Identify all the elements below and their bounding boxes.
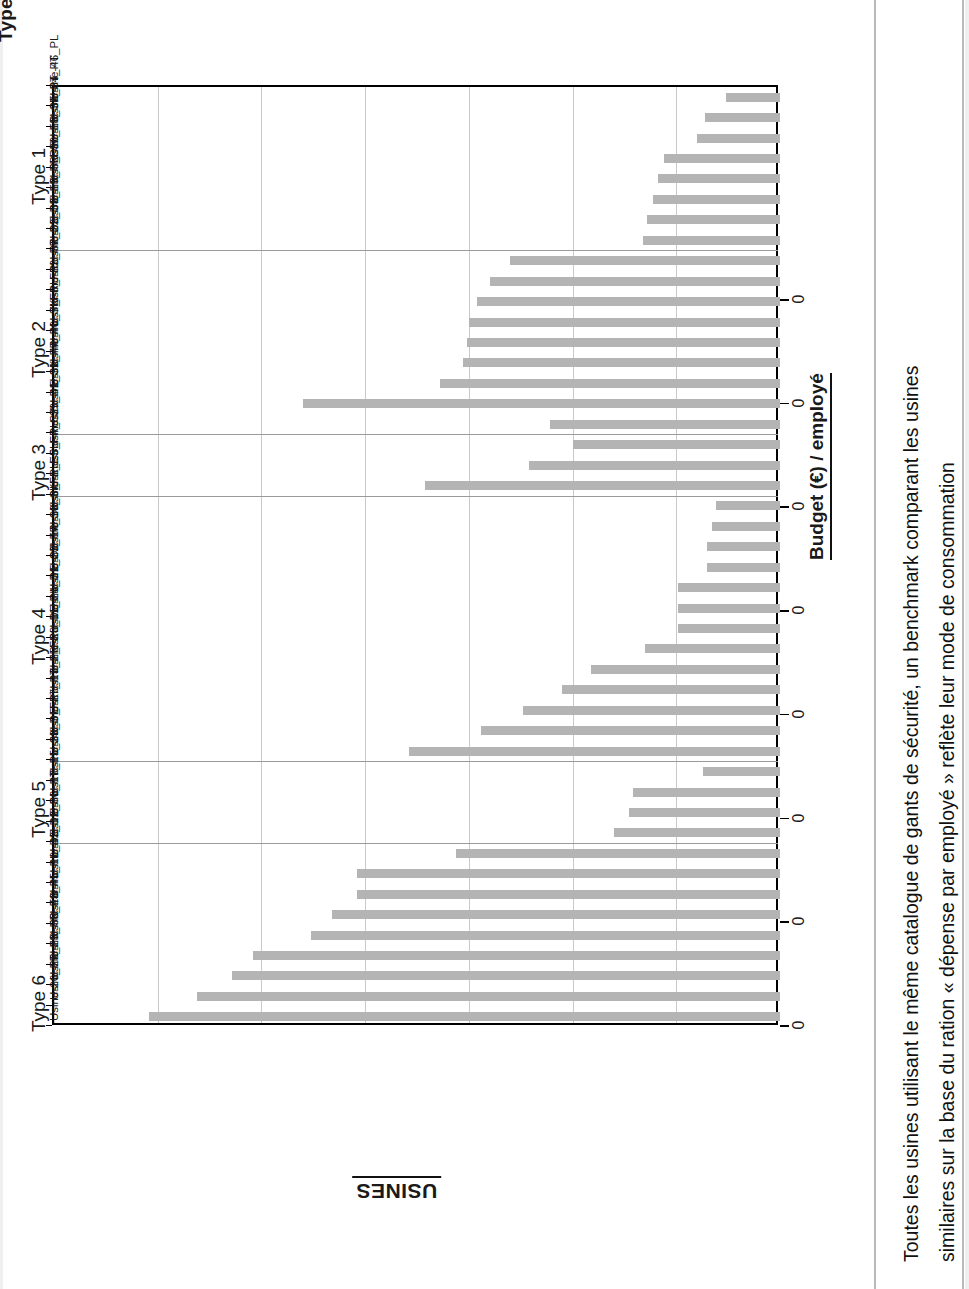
gridline (573, 87, 574, 1023)
bar (678, 624, 780, 633)
bar (425, 481, 780, 490)
caption-line-1: Toutes les usines utilisant le même cata… (893, 52, 929, 1262)
bar (149, 1012, 780, 1021)
group-separator (54, 761, 778, 762)
plot-area (52, 85, 778, 1025)
bar (463, 358, 780, 367)
value-tick (780, 506, 789, 508)
bar (357, 890, 780, 899)
bar (697, 134, 780, 143)
bar (311, 931, 780, 940)
bar-chart: Types d'usine Usine-46_PLUsine-34_PTUsin… (0, 0, 875, 1289)
value-tick (780, 403, 789, 405)
value-tick-label: 0 (790, 286, 808, 312)
bar (481, 726, 780, 735)
bar (716, 501, 780, 510)
bar (591, 665, 780, 674)
page-edge-right (965, 0, 969, 1289)
bar (469, 318, 780, 327)
gridline (261, 87, 262, 1023)
value-tick-label: 0 (790, 805, 808, 831)
bar (562, 685, 780, 694)
value-tick (780, 921, 789, 923)
category-tick-labels: Usine-46_PLUsine-34_PTUsine-35_PTUsine-1… (0, 85, 52, 1025)
bar (197, 992, 780, 1001)
value-tick (780, 610, 789, 612)
bar (573, 440, 780, 449)
value-tick-label: 0 (790, 908, 808, 934)
bar (303, 399, 780, 408)
group-axis-title: Types d'usine (0, 0, 25, 42)
bar (232, 971, 780, 980)
bar (510, 256, 780, 265)
bar (253, 951, 780, 960)
bar (712, 522, 780, 531)
value-tick-label: 0 (790, 597, 808, 623)
bar (678, 604, 780, 613)
bar (645, 644, 780, 653)
bar (707, 563, 780, 572)
bar (456, 849, 780, 858)
bar (332, 910, 780, 919)
bar (705, 113, 780, 122)
bar (647, 215, 780, 224)
value-axis-title: Budget (€) / employé (806, 373, 832, 560)
bar (477, 297, 780, 306)
bar (409, 747, 780, 756)
bar (664, 154, 780, 163)
group-separator (54, 250, 778, 251)
group-separator (54, 496, 778, 497)
bar (643, 236, 780, 245)
figure-caption: Toutes les usines utilisant le même cata… (893, 52, 965, 1262)
group-separator (54, 843, 778, 844)
value-tick (780, 818, 789, 820)
bar (703, 767, 780, 776)
gridline (676, 87, 677, 1023)
group-label-type-2: Type 2 (28, 321, 50, 378)
value-tick (780, 1025, 789, 1027)
gridline (469, 87, 470, 1023)
bar (490, 277, 780, 286)
value-tick-label: 0 (790, 701, 808, 727)
group-label-type-5: Type 5 (28, 781, 50, 838)
bar (550, 420, 780, 429)
bar (629, 808, 780, 817)
gridline (158, 87, 159, 1023)
bar (529, 461, 780, 470)
bar (658, 174, 780, 183)
bar (614, 828, 780, 837)
group-label-type-1: Type 1 (28, 148, 50, 205)
value-tick-label: 0 (790, 1012, 808, 1038)
group-label-type-4: Type 4 (28, 607, 50, 664)
group-separator (54, 434, 778, 435)
category-axis-title: USINES (352, 1176, 441, 1203)
bar (633, 788, 780, 797)
bar (726, 93, 780, 102)
group-label-type-3: Type 3 (28, 444, 50, 501)
gridline (365, 87, 366, 1023)
bar (523, 706, 780, 715)
value-axis-line (776, 85, 778, 1025)
bar (653, 195, 780, 204)
bar (707, 542, 780, 551)
value-tick (780, 714, 789, 716)
group-label-type-6: Type 6 (28, 975, 50, 1032)
value-tick (780, 299, 789, 301)
bar (678, 583, 780, 592)
caption-line-2: similaires sur la base du ration « dépen… (929, 52, 965, 1262)
bar (467, 338, 780, 347)
bar (440, 379, 780, 388)
bar (357, 869, 780, 878)
